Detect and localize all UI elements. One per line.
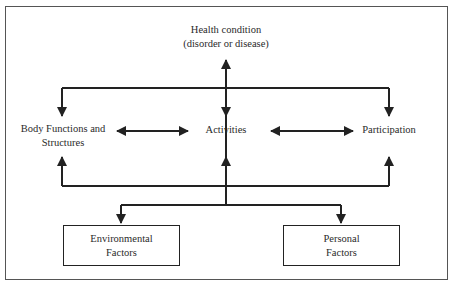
health-condition-node: Health condition (disorder or disease) (176, 23, 276, 51)
personal-factors-box: Personal Factors (283, 225, 400, 266)
body-functions-line1: Body Functions and (18, 122, 108, 136)
activities-node: Activities (196, 123, 256, 137)
environmental-factors-box: Environmental Factors (63, 225, 180, 266)
body-functions-node: Body Functions and Structures (18, 122, 108, 150)
environmental-factors-line1: Environmental (90, 232, 152, 246)
personal-factors-line1: Personal (323, 232, 359, 246)
participation-node: Participation (356, 123, 422, 137)
health-condition-title: Health condition (176, 23, 276, 37)
body-functions-line2: Structures (18, 136, 108, 150)
environmental-factors-line2: Factors (106, 246, 137, 260)
personal-factors-line2: Factors (326, 246, 357, 260)
health-condition-subtitle: (disorder or disease) (176, 37, 276, 51)
